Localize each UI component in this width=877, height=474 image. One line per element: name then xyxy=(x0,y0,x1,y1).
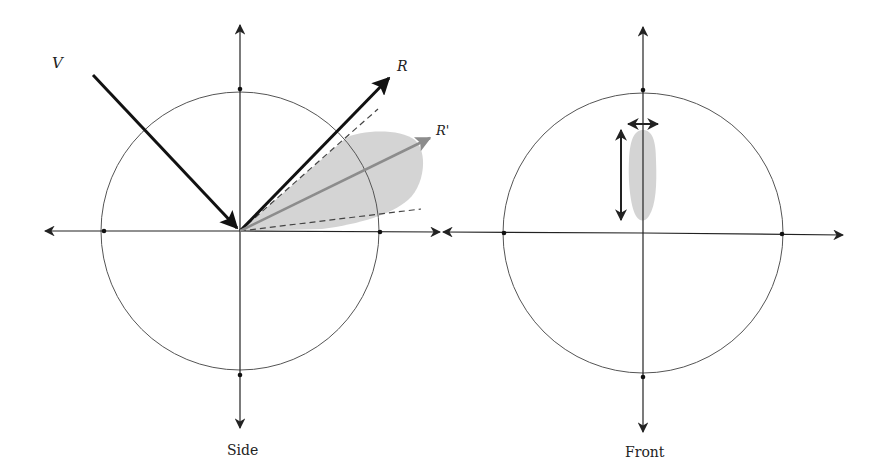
label-v: V xyxy=(52,54,65,72)
front-panel: Front xyxy=(443,27,843,460)
caption-side: Side xyxy=(227,442,258,458)
reflection-diagram: V R R' Side Front xyxy=(0,0,877,474)
caption-front: Front xyxy=(625,444,665,460)
incident-vector-v xyxy=(93,75,237,228)
reflection-lobe-side xyxy=(240,132,423,232)
front-x-axis-pos xyxy=(643,233,843,235)
front-x-axis-neg xyxy=(443,232,643,233)
side-x-axis-pos xyxy=(240,231,440,232)
label-r: R xyxy=(396,58,408,74)
label-r-prime: R' xyxy=(435,123,449,138)
side-panel: V R R' Side xyxy=(45,25,449,458)
